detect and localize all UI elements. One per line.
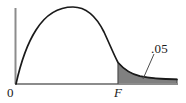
x-axis-origin-label: 0 <box>7 86 14 99</box>
tail-area-label: .05 <box>151 42 168 55</box>
x-axis-critical-value-label: F <box>114 86 122 99</box>
shaded-tail-region <box>118 63 177 85</box>
annotation-leader-line <box>143 54 154 79</box>
f-distribution-figure: 0 F .05 <box>0 0 186 103</box>
